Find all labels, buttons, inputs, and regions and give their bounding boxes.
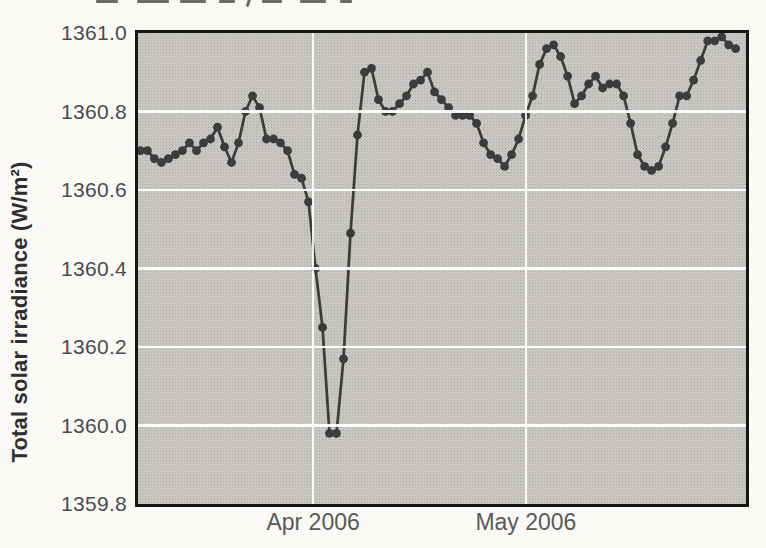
data-point [402,91,411,100]
data-point [654,162,663,171]
data-point [283,146,292,155]
data-point [479,139,488,148]
data-point [682,91,691,100]
data-point [731,44,740,53]
data-point [276,139,285,148]
data-point [626,119,635,128]
gridline-horizontal [138,110,746,113]
y-tick-label: 1360.8 [0,100,127,124]
data-point [633,150,642,159]
y-tick-label: 1360.6 [0,178,127,202]
data-point [234,139,243,148]
data-point [570,99,579,108]
data-point [584,80,593,89]
data-point [367,64,376,73]
data-point [206,135,215,144]
data-point [696,56,705,65]
y-tick-label: 1360.2 [0,335,127,359]
data-point [619,91,628,100]
data-point [297,174,306,183]
data-point [353,131,362,140]
y-tick-label: 1359.8 [0,492,127,516]
data-point [528,91,537,100]
data-point [178,146,187,155]
data-point [437,95,446,104]
data-point [339,354,348,363]
plot-area [135,30,749,507]
data-point [535,60,544,69]
data-point [220,142,229,151]
data-point [395,99,404,108]
gridline-horizontal [138,424,746,427]
data-point [668,119,677,128]
data-point [472,119,481,128]
data-point [591,72,600,81]
data-point [143,146,152,155]
data-point [500,162,509,171]
data-point [507,150,516,159]
data-point [612,80,621,89]
y-tick-label: 1361.0 [0,21,127,45]
solar-irradiance-figure: Total solar irradiance (W/m²) 1361.01360… [0,0,766,548]
gridline-vertical [525,33,527,504]
data-point [192,146,201,155]
data-point [577,91,586,100]
data-point [332,429,341,438]
data-point [416,76,425,85]
gridline-horizontal [138,189,746,192]
y-tick-label: 1360.0 [0,414,127,438]
gridline-horizontal [138,267,746,270]
data-point [248,91,257,100]
gridline-horizontal [138,346,746,349]
data-point [563,72,572,81]
data-point [549,40,558,49]
x-tick-label: May 2006 [475,509,576,536]
x-tick-label: Apr 2006 [266,509,359,536]
cropped-text-remnant [0,0,766,10]
data-point [318,323,327,332]
data-point [661,142,670,151]
gridline-vertical [312,33,314,504]
data-point [430,88,439,97]
data-point [374,95,383,104]
data-point [493,154,502,163]
data-point [514,135,523,144]
data-point [689,76,698,85]
data-point [213,123,222,132]
data-point [185,139,194,148]
data-point [346,229,355,238]
series-line [140,37,735,433]
data-point [556,52,565,61]
data-point [227,158,236,167]
data-point [423,68,432,77]
y-tick-label: 1360.4 [0,257,127,281]
